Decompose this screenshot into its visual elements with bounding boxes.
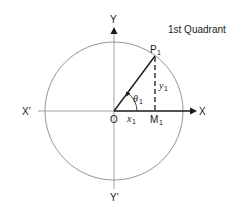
foot-m-subscript: 1 <box>159 119 163 126</box>
angle-label: θ 1 <box>133 93 143 105</box>
y-component-label: y 1 <box>158 80 168 92</box>
x-component-label: x 1 <box>126 113 136 125</box>
quadrant-title: 1st Quadrant <box>168 24 226 35</box>
x-axis-label: X <box>199 106 206 117</box>
point-p1-label: P 1 <box>150 44 161 56</box>
x-axis-arrow-icon <box>190 108 197 115</box>
theta-subscript: 1 <box>139 98 143 105</box>
unit-circle-diagram: 1st Quadrant Y Y' X X' O P 1 M 1 x 1 y 1… <box>0 0 245 224</box>
origin-label: O <box>110 114 118 125</box>
y1-subscript: 1 <box>164 85 168 92</box>
foot-m-text: M <box>150 114 158 125</box>
y-axis-label: Y <box>110 14 117 25</box>
foot-m1-label: M 1 <box>150 114 163 126</box>
x1-subscript: 1 <box>132 118 136 125</box>
y-axis-arrow-icon <box>111 27 118 34</box>
point-p-subscript: 1 <box>157 49 161 56</box>
y-axis-neg-label: Y' <box>110 192 119 203</box>
point-p-text: P <box>150 44 157 55</box>
x-axis-neg-label: X' <box>22 106 31 117</box>
theta-text: θ <box>133 93 138 104</box>
